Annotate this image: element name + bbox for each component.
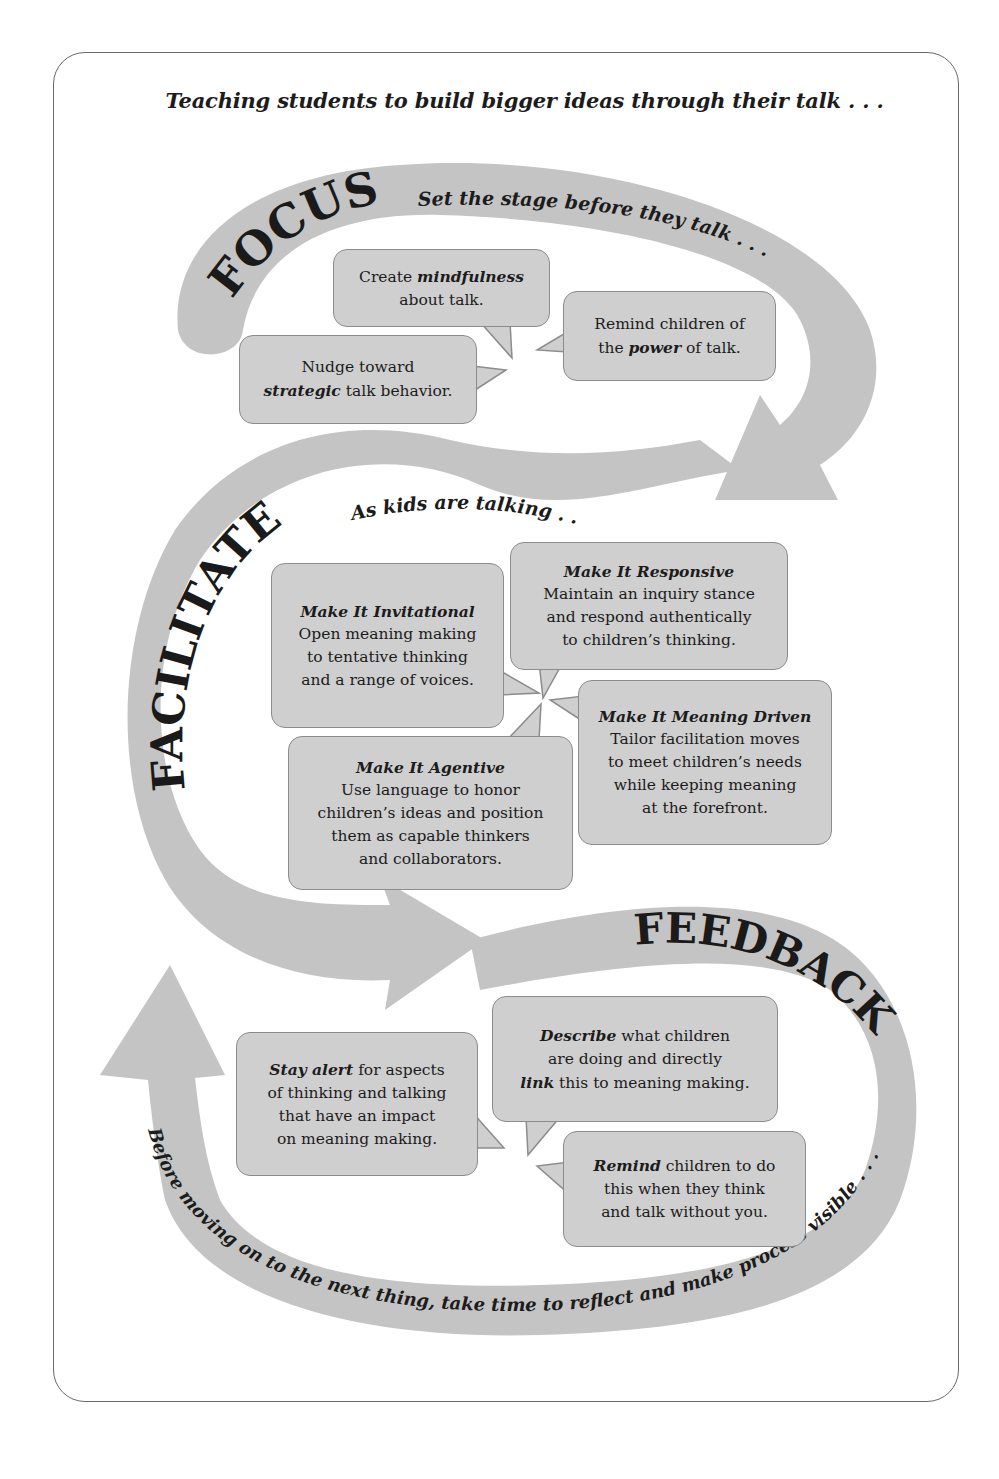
focus-bubble-strategic: Nudge toward strategic talk behavior. (239, 335, 477, 424)
facilitate-label: FACILITATE (141, 491, 289, 793)
focus-bubble-mindfulness: Create mindfulness about talk. (333, 249, 550, 327)
feedback-bubble-stay-alert: Stay alert for aspects of thinking and t… (236, 1032, 478, 1176)
facilitate-bubble-invitational: Make It Invitational Open meaning making… (271, 563, 504, 728)
facilitate-bubble-responsive: Make It Responsive Maintain an inquiry s… (510, 542, 788, 670)
facilitate-bubble-agentive: Make It Agentive Use language to honor c… (288, 736, 573, 890)
feedback-bubble-describe: Describe what children are doing and dir… (492, 996, 778, 1122)
feedback-bubble-remind: Remind children to do this when they thi… (563, 1131, 806, 1247)
focus-bubble-power: Remind children of the power of talk. (563, 291, 776, 381)
facilitate-bubble-meaning-driven: Make It Meaning Driven Tailor facilitati… (578, 680, 832, 845)
